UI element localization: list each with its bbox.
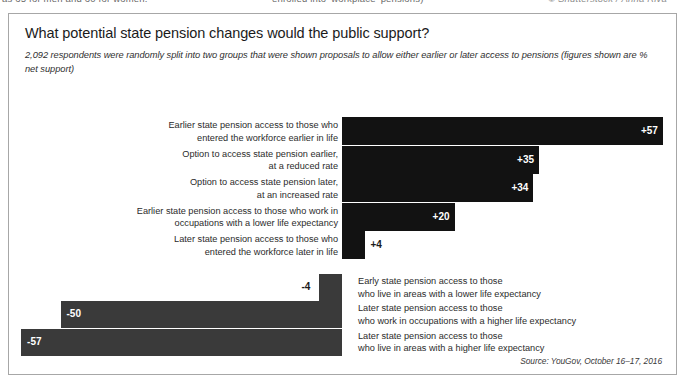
bar-category-label: Earlier state pension access to those wh… [82, 119, 342, 144]
bar-chart: +57Earlier state pension access to those… [9, 14, 678, 376]
bar-row: +4Later state pension access to those wh… [9, 231, 678, 259]
source-note: Source: YouGov, October 16–17, 2016 [520, 356, 662, 366]
page-text-column-2: enrolled into 'workplace' pensions) [272, 0, 424, 4]
bar[interactable] [342, 146, 539, 174]
bar-category-label-line-2: at an increased rate [82, 189, 338, 202]
bar-row: +35Option to access state pension earlie… [9, 146, 678, 174]
image-credit: © Shutterstock / Anna Riva [548, 0, 667, 4]
figure-frame: What potential state pension changes wou… [8, 13, 677, 375]
bar-value-label: -57 [27, 337, 41, 347]
bar-category-label: Later state pension access to thosewho w… [352, 302, 652, 327]
bar[interactable] [319, 274, 342, 301]
bar[interactable] [61, 301, 343, 328]
bar-category-label: Later state pension access to those whoe… [82, 233, 342, 258]
bar-category-label-line-2: at a reduced rate [82, 160, 338, 173]
bar-value-label: -4 [301, 282, 310, 292]
bar-value-label: +4 [371, 240, 382, 250]
bar-row: +57Earlier state pension access to those… [9, 117, 678, 145]
bar-category-label-line-2: occupations with a lower life expectancy [82, 217, 338, 230]
bar-value-label: +20 [433, 212, 450, 222]
bar-category-label-line-2: who live in areas with a lower life expe… [358, 288, 652, 301]
bar-category-label: Early state pension access to thosewho l… [352, 275, 652, 300]
bar[interactable] [342, 174, 533, 202]
bar-category-label-line-1: Later state pension access to those who [82, 233, 338, 246]
bar-category-label-line-1: Later state pension access to those [358, 330, 652, 343]
page-text-strip: as 65 for men and 60 for women. enrolled… [0, 0, 686, 11]
bar-row: +34Option to access state pension later,… [9, 174, 678, 202]
bar-category-label-line-1: Option to access state pension earlier, [82, 148, 338, 161]
page-text-column-1: as 65 for men and 60 for women. [2, 0, 148, 4]
bar-category-label: Later state pension access to thosewho l… [352, 330, 652, 355]
bar-row: -4Early state pension access to thosewho… [9, 274, 678, 301]
bar-value-label: +57 [641, 126, 658, 136]
bar-category-label-line-1: Later state pension access to those [358, 302, 652, 315]
bar-value-label: +35 [517, 155, 534, 165]
bar-category-label-line-1: Earlier state pension access to those wh… [82, 119, 338, 132]
bar-category-label: Option to access state pension earlier,a… [82, 148, 342, 173]
bar-category-label-line-1: Earlier state pension access to those wh… [82, 205, 338, 218]
bar[interactable] [21, 329, 342, 356]
bar-row: -50Later state pension access to thosewh… [9, 301, 678, 328]
bar-category-label: Option to access state pension later,at … [82, 176, 342, 201]
bar-value-label: +34 [511, 183, 528, 193]
bar[interactable] [342, 231, 365, 259]
bar[interactable] [342, 117, 663, 145]
bar-category-label-line-1: Option to access state pension later, [82, 176, 338, 189]
bar-category-label-line-2: entered the workforce earlier in life [82, 132, 338, 145]
bar-category-label: Earlier state pension access to those wh… [82, 205, 342, 230]
bar-value-label: -50 [67, 309, 81, 319]
bar-category-label-line-2: entered the workforce later in life [82, 246, 338, 259]
bar-row: +20Earlier state pension access to those… [9, 203, 678, 231]
bar-row: -57Later state pension access to thosewh… [9, 329, 678, 356]
bar-category-label-line-2: who live in areas with a higher life exp… [358, 342, 652, 355]
bar-category-label-line-1: Early state pension access to those [358, 275, 652, 288]
bar-category-label-line-2: who work in occupations with a higher li… [358, 315, 652, 328]
